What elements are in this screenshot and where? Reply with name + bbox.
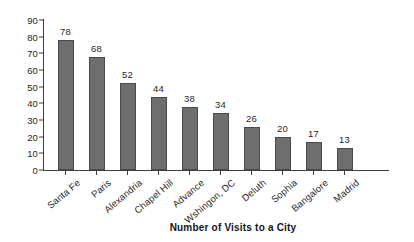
y-axis-tick-mark — [39, 20, 43, 21]
x-axis-tick-mark — [65, 170, 66, 175]
bar-value-label: 38 — [184, 93, 195, 104]
y-axis-tick-mark — [39, 36, 43, 37]
bar-value-label: 44 — [153, 83, 164, 94]
bar-group: 13 — [329, 20, 360, 170]
bar-value-label: 26 — [246, 113, 257, 124]
bar — [58, 40, 74, 170]
bar-value-label: 17 — [308, 128, 319, 139]
bar-group: 38 — [174, 20, 205, 170]
bar-group: 68 — [81, 20, 112, 170]
bar-group: 26 — [236, 20, 267, 170]
y-axis-tick-mark — [39, 103, 43, 104]
y-axis-tick-mark — [39, 170, 43, 171]
bar-value-label: 34 — [215, 99, 226, 110]
y-axis-tick-mark — [39, 153, 43, 154]
x-axis-category-label-text: Madrid — [331, 177, 361, 204]
bar-group: 34 — [205, 20, 236, 170]
y-axis-tick-mark — [39, 53, 43, 54]
bar-group: 44 — [143, 20, 174, 170]
bar-group: 78 — [50, 20, 81, 170]
y-axis-tick-mark — [39, 120, 43, 121]
bar-group: 52 — [112, 20, 143, 170]
x-axis-category-label-text: Paris — [89, 177, 113, 200]
bar-value-label: 78 — [60, 26, 71, 37]
bar-chart: 0102030405060708090 78685244383426201713… — [0, 0, 414, 242]
y-axis-tick-mark — [39, 70, 43, 71]
x-axis-title: Number of Visits to a City — [0, 222, 414, 233]
x-axis-category-label-text: Santa Fe — [44, 177, 81, 211]
bar-group: 17 — [298, 20, 329, 170]
y-axis-tick-mark — [39, 86, 43, 87]
y-axis-tick-mark — [39, 136, 43, 137]
x-axis-category-label-text: Deluth — [239, 177, 268, 203]
bar-value-label: 20 — [277, 123, 288, 134]
bar-value-label: 52 — [122, 69, 133, 80]
bar — [120, 83, 136, 170]
bar-value-label: 68 — [91, 43, 102, 54]
bar-value-label: 13 — [339, 134, 350, 145]
plot-area: 0102030405060708090 78685244383426201713 — [44, 20, 389, 170]
